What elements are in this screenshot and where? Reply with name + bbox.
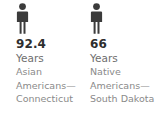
stat-description-line-2: Americans— <box>90 79 150 93</box>
stat-description-line-1: Asian <box>16 65 42 79</box>
stat-value: 66 <box>90 38 107 51</box>
stat-description-line-3: Connecticut <box>16 92 73 106</box>
stat-unit-label: Years <box>90 51 118 65</box>
stat-value: 92.4 <box>16 38 46 51</box>
stat-column-native-americans-south-dakota: 66 Years Native Americans— South Dakota <box>77 0 159 120</box>
person-icon <box>16 3 29 34</box>
stat-unit-label: Years <box>16 51 44 65</box>
stat-column-asian-americans-connecticut: 92.4 Years Asian Americans— Connecticut <box>0 0 77 120</box>
person-icon <box>90 3 103 34</box>
stat-description-line-3: South Dakota <box>90 92 154 106</box>
stat-description-line-1: Native <box>90 65 121 79</box>
life-expectancy-stats-panel: 92.4 Years Asian Americans— Connecticut … <box>0 0 159 120</box>
stat-description-line-2: Americans— <box>16 79 76 93</box>
